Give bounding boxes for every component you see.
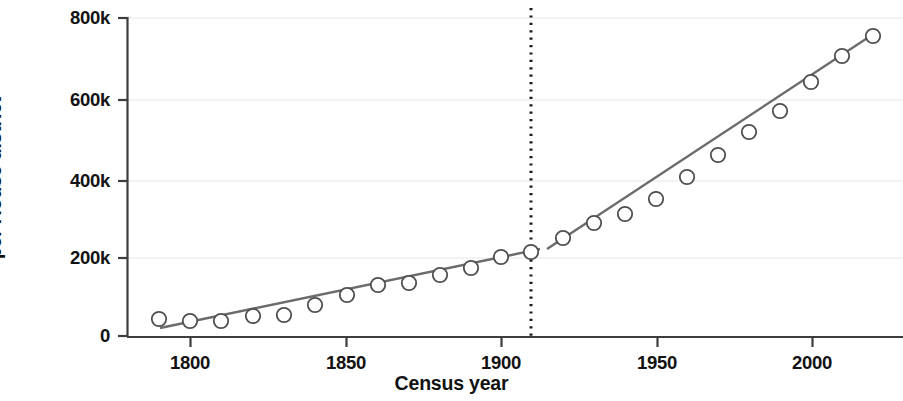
y-tick-label-400k: 400k [28, 170, 110, 192]
y-tick-label-200k: 200k [28, 247, 110, 269]
y-tick-label-0: 0 [28, 325, 110, 347]
data-point [524, 245, 538, 259]
data-point [464, 261, 478, 275]
x-axis [127, 337, 903, 347]
x-tick-label-2000: 2000 [767, 352, 857, 374]
gridlines [127, 18, 903, 258]
data-point [680, 170, 694, 184]
x-tick-label-1850: 1850 [301, 352, 391, 374]
data-point [773, 104, 787, 118]
x-axis-title: Census year [0, 372, 903, 396]
x-tick-label-1900: 1900 [456, 352, 546, 374]
data-point [494, 250, 508, 264]
data-point [835, 49, 849, 63]
chart-plot-area [0, 0, 903, 401]
data-point [371, 278, 385, 292]
data-point [618, 207, 632, 221]
y-axis-title-text: Average no. of constituents per House di… [0, 58, 7, 298]
y-axis-title: Average no. of constituents per House di… [0, 148, 31, 208]
data-point [556, 231, 570, 245]
data-point [246, 309, 260, 323]
data-point [711, 148, 725, 162]
data-point [804, 75, 818, 89]
data-point [152, 312, 166, 326]
data-point [183, 314, 197, 328]
data-point [742, 125, 756, 139]
data-points [152, 29, 880, 328]
data-point [649, 192, 663, 206]
data-point [866, 29, 880, 43]
x-tick-label-1800: 1800 [145, 352, 235, 374]
chart-figure: Average no. of constituents per House di… [0, 0, 903, 401]
data-point [433, 268, 447, 282]
data-point [587, 216, 601, 230]
data-point [340, 288, 354, 302]
data-point [277, 308, 291, 322]
data-point [214, 314, 228, 328]
data-point [308, 298, 322, 312]
y-tick-label-600k: 600k [28, 89, 110, 111]
y-tick-label-800k: 800k [28, 7, 110, 29]
y-axis [118, 17, 128, 337]
data-point [402, 276, 416, 290]
x-tick-label-1950: 1950 [612, 352, 702, 374]
